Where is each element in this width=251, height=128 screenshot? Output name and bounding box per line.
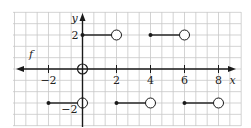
x-axis-label: x <box>229 74 236 87</box>
step-function-chart: −224682−2yxf <box>0 0 251 128</box>
closed-endpoint <box>47 101 51 105</box>
x-axis-right-arrow-icon <box>228 66 236 72</box>
open-endpoint <box>214 98 224 108</box>
open-endpoint <box>180 30 190 40</box>
closed-endpoint <box>149 33 153 37</box>
x-axis-left-arrow-icon <box>16 66 24 72</box>
axes <box>16 13 236 127</box>
x-tick-label: 2 <box>113 74 120 87</box>
axis-labels: −224682−2yxf <box>28 12 236 116</box>
open-endpoint <box>112 30 122 40</box>
function-label: f <box>28 48 35 61</box>
closed-endpoint <box>183 101 187 105</box>
open-endpoint <box>146 98 156 108</box>
closed-endpoint <box>81 33 85 37</box>
x-tick-label: −2 <box>40 74 56 87</box>
closed-endpoint <box>115 101 119 105</box>
x-tick-label: 6 <box>181 74 188 87</box>
y-axis-label: y <box>70 12 78 25</box>
y-axis-arrow-icon <box>80 13 86 21</box>
y-tick-label: −2 <box>61 103 77 116</box>
y-tick-label: 2 <box>72 29 79 42</box>
x-tick-label: 4 <box>147 74 154 87</box>
x-tick-label: 8 <box>215 74 222 87</box>
